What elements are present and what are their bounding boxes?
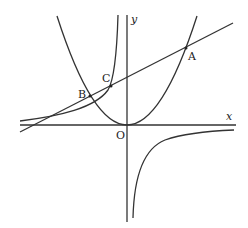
point-b-label: B — [78, 89, 86, 100]
point-a-label: A — [188, 51, 196, 62]
origin-label: O — [116, 130, 125, 141]
graph-figure — [0, 0, 248, 228]
point-c-label: C — [102, 73, 110, 84]
hyperbola-left-branch — [20, 15, 118, 121]
y-axis-label: y — [131, 14, 137, 25]
x-axis-label: x — [226, 111, 232, 122]
point-b-dot — [89, 95, 92, 98]
hyperbola-right-branch — [133, 130, 234, 218]
